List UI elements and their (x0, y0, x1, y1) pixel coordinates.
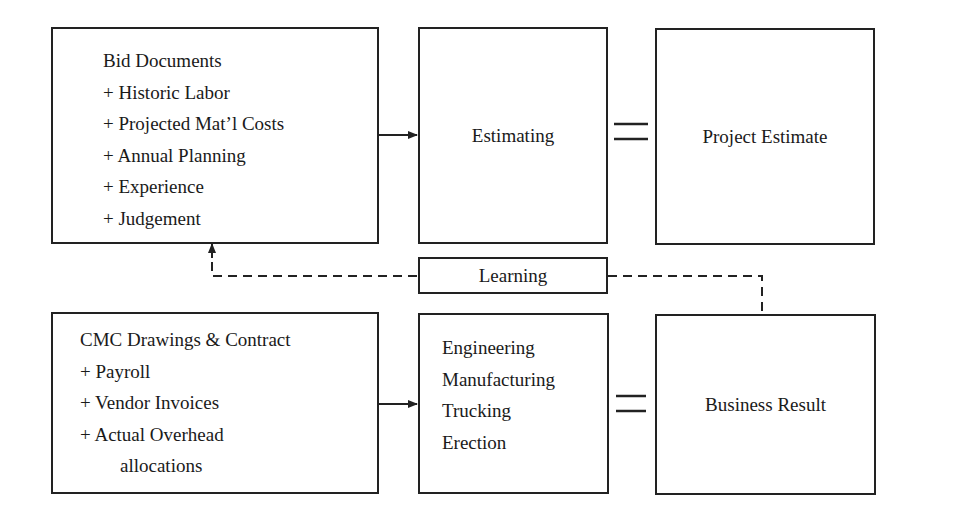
equals-icon-top (614, 124, 648, 139)
bid-input-line: + Experience (103, 171, 284, 203)
learning-label: Learning (479, 265, 548, 287)
bid-input-line: + Historic Labor (103, 77, 284, 109)
actuals-input-line: + Payroll (80, 356, 291, 388)
operations-line: Manufacturing (442, 364, 555, 396)
actuals-input-line: + Actual Overhead (80, 419, 291, 451)
operations-text: Engineering Manufacturing Trucking Erect… (442, 332, 555, 458)
bid-input-line: + Projected Mat’l Costs (103, 108, 284, 140)
business-result-label: Business Result (705, 394, 826, 416)
project-estimate-label: Project Estimate (702, 126, 827, 148)
dashed-feedback-right (608, 276, 762, 313)
business-result-box: Business Result (655, 314, 876, 495)
actuals-inputs-box: CMC Drawings & Contract + Payroll + Vend… (51, 312, 379, 494)
equals-icon-bottom (616, 396, 646, 411)
learning-box: Learning (418, 257, 608, 294)
bid-input-line: + Judgement (103, 203, 284, 235)
estimating-box: Estimating (418, 27, 608, 244)
operations-box: Engineering Manufacturing Trucking Erect… (418, 313, 609, 494)
project-estimate-box: Project Estimate (655, 28, 875, 245)
operations-line: Trucking (442, 395, 555, 427)
bid-input-line: + Annual Planning (103, 140, 284, 172)
actuals-input-line: + Vendor Invoices (80, 387, 291, 419)
dashed-feedback-left (212, 258, 417, 276)
actuals-input-line: CMC Drawings & Contract (80, 324, 291, 356)
actuals-inputs-text: CMC Drawings & Contract + Payroll + Vend… (80, 324, 291, 482)
estimating-label: Estimating (472, 125, 554, 147)
operations-line: Erection (442, 427, 555, 459)
bid-input-line: Bid Documents (103, 45, 284, 77)
operations-line: Engineering (442, 332, 555, 364)
bid-inputs-text: Bid Documents + Historic Labor + Project… (103, 45, 284, 234)
bid-inputs-box: Bid Documents + Historic Labor + Project… (51, 27, 379, 244)
actuals-input-line: allocations (80, 450, 291, 482)
